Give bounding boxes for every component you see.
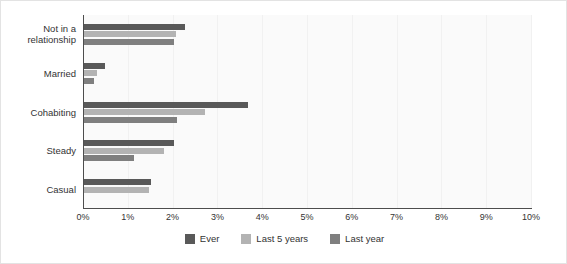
- category-label-line: Not in a: [0, 23, 76, 34]
- bar: [84, 102, 248, 108]
- legend-item[interactable]: Last 5 years: [241, 233, 308, 244]
- bar: [84, 39, 174, 45]
- category-label: Married: [0, 68, 76, 79]
- category-label: Casual: [0, 184, 76, 195]
- x-tick-label: 4%: [256, 212, 269, 222]
- x-tick-label: 5%: [300, 212, 313, 222]
- legend-label: Ever: [200, 233, 220, 244]
- gridline: [486, 15, 487, 209]
- category-label-line: Married: [0, 68, 76, 79]
- category-label-line: relationship: [0, 34, 76, 45]
- gridline: [217, 15, 218, 209]
- bar: [84, 117, 177, 123]
- category-label-line: Cohabiting: [0, 107, 76, 118]
- bar: [84, 187, 149, 193]
- legend-swatch-icon: [241, 234, 251, 244]
- legend-item[interactable]: Last year: [330, 233, 384, 244]
- gridline: [262, 15, 263, 209]
- x-tick-label: 8%: [435, 212, 448, 222]
- bar: [84, 70, 97, 76]
- gridline: [307, 15, 308, 209]
- x-tick-label: 2%: [166, 212, 179, 222]
- bar: [84, 63, 105, 69]
- category-label-line: Steady: [0, 145, 76, 156]
- category-label: Cohabiting: [0, 107, 76, 118]
- bar: [84, 148, 164, 154]
- bar-chart: Not in arelationshipMarriedCohabitingSte…: [0, 0, 567, 264]
- x-axis-line: [83, 208, 532, 209]
- bar: [84, 109, 205, 115]
- gridline: [531, 15, 532, 209]
- bar: [84, 31, 176, 37]
- category-label-line: Casual: [0, 184, 76, 195]
- bar: [84, 24, 185, 30]
- x-tick-label: 6%: [345, 212, 358, 222]
- legend-label: Last 5 years: [256, 233, 308, 244]
- legend-item[interactable]: Ever: [185, 233, 220, 244]
- bar: [84, 155, 134, 161]
- x-tick-label: 7%: [390, 212, 403, 222]
- gridline: [397, 15, 398, 209]
- bar: [84, 179, 151, 185]
- legend-label: Last year: [345, 233, 384, 244]
- chart-legend: EverLast 5 yearsLast year: [1, 233, 567, 244]
- x-tick-label: 0%: [76, 212, 89, 222]
- legend-swatch-icon: [185, 234, 195, 244]
- legend-swatch-icon: [330, 234, 340, 244]
- gridline: [352, 15, 353, 209]
- x-tick-label: 1%: [121, 212, 134, 222]
- x-tick-label: 3%: [211, 212, 224, 222]
- bar: [84, 140, 174, 146]
- category-label: Steady: [0, 145, 76, 156]
- x-tick-label: 10%: [522, 212, 540, 222]
- x-tick-label: 9%: [480, 212, 493, 222]
- category-label: Not in arelationship: [0, 23, 76, 45]
- gridline: [441, 15, 442, 209]
- bar: [84, 78, 94, 84]
